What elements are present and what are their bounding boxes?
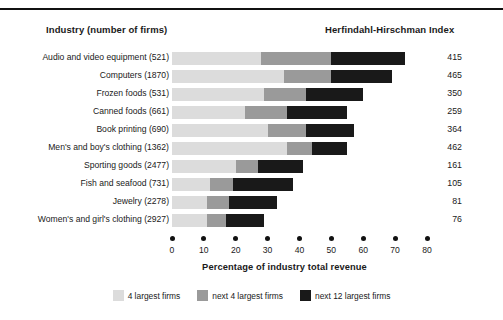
- legend-swatch: [197, 290, 208, 301]
- row-hhi-value: 462: [432, 141, 462, 153]
- legend-label: 4 largest firms: [128, 291, 181, 301]
- industry-column-header: Industry (number of firms): [46, 24, 167, 35]
- bar-segment: [236, 160, 258, 173]
- row-hhi-value: 105: [432, 177, 462, 189]
- bar-segment: [172, 214, 207, 227]
- axis-tick-dot: [393, 236, 398, 241]
- bar-segment: [172, 178, 210, 191]
- chart-legend: 4 largest firmsnext 4 largest firmsnext …: [0, 290, 503, 301]
- top-divider: [0, 8, 503, 10]
- axis-tick-label: 40: [287, 245, 313, 255]
- table-row: Jewelry (2278)81: [0, 194, 503, 212]
- bar-segment: [287, 142, 313, 155]
- axis-tick-label: 20: [223, 245, 249, 255]
- bar-segment: [172, 52, 261, 65]
- legend-item: next 12 largest firms: [300, 290, 390, 301]
- axis-tick-label: 80: [414, 245, 440, 255]
- row-industry-label: Fish and seafood (731): [81, 177, 169, 189]
- stacked-bar: [172, 160, 303, 173]
- stacked-bar: [172, 88, 363, 101]
- row-industry-label: Men's and boy's clothing (1362): [48, 141, 169, 153]
- bar-segment: [226, 214, 264, 227]
- legend-swatch: [113, 290, 124, 301]
- bar-segment: [229, 196, 277, 209]
- row-hhi-value: 415: [432, 51, 462, 63]
- bar-segment: [172, 106, 245, 119]
- bar-segment: [264, 88, 305, 101]
- legend-label: next 12 largest firms: [315, 291, 390, 301]
- x-axis-title-text: Percentage of industry total revenue: [202, 262, 367, 272]
- bar-segment: [268, 124, 306, 137]
- bar-segment: [312, 142, 347, 155]
- table-row: Fish and seafood (731)105: [0, 176, 503, 194]
- row-hhi-value: 465: [432, 69, 462, 81]
- row-hhi-value: 364: [432, 123, 462, 135]
- bar-segment: [306, 88, 363, 101]
- row-industry-label: Jewelry (2278): [113, 195, 169, 207]
- stacked-bar: [172, 178, 293, 191]
- bar-segment: [172, 160, 236, 173]
- axis-tick-dot: [233, 236, 238, 241]
- table-row: Frozen foods (531)350: [0, 86, 503, 104]
- legend-item: 4 largest firms: [113, 290, 181, 301]
- bar-segment: [287, 106, 348, 119]
- x-axis-title: Percentage of industry total revenue: [0, 262, 503, 272]
- stacked-bar: [172, 52, 405, 65]
- hhi-column-header: Herfindahl-Hirschman Index: [325, 24, 454, 35]
- legend-label: next 4 largest firms: [212, 291, 283, 301]
- row-hhi-value: 76: [432, 213, 462, 225]
- row-industry-label: Computers (1870): [100, 69, 169, 81]
- row-industry-label: Frozen foods (531): [96, 87, 169, 99]
- row-industry-label: Book printing (690): [96, 123, 169, 135]
- axis-tick-label: 10: [191, 245, 217, 255]
- axis-tick-dot: [170, 236, 175, 241]
- axis-tick-dot: [329, 236, 334, 241]
- stacked-bar: [172, 124, 354, 137]
- axis-tick-dot: [297, 236, 302, 241]
- axis-tick-label: 70: [382, 245, 408, 255]
- axis-tick-label: 60: [350, 245, 376, 255]
- row-industry-label: Women's and girl's clothing (2927): [38, 213, 169, 225]
- table-row: Computers (1870)465: [0, 68, 503, 86]
- row-industry-label: Canned foods (661): [93, 105, 169, 117]
- bar-segment: [172, 196, 207, 209]
- bar-segment: [172, 124, 268, 137]
- row-industry-label: Audio and video equipment (521): [42, 51, 169, 63]
- bar-segment: [233, 178, 294, 191]
- row-hhi-value: 81: [432, 195, 462, 207]
- bar-segment: [207, 196, 229, 209]
- bar-segment: [284, 70, 332, 83]
- stacked-bar: [172, 196, 277, 209]
- table-row: Book printing (690)364: [0, 122, 503, 140]
- stacked-bar: [172, 142, 347, 155]
- table-row: Men's and boy's clothing (1362)462: [0, 140, 503, 158]
- axis-tick-dot: [201, 236, 206, 241]
- stacked-bar: [172, 106, 347, 119]
- table-row: Sporting goods (2477)161: [0, 158, 503, 176]
- stacked-bar: [172, 214, 264, 227]
- chart-rows: Audio and video equipment (521)415Comput…: [0, 50, 503, 230]
- axis-tick-dot: [265, 236, 270, 241]
- bar-segment: [331, 70, 392, 83]
- table-row: Women's and girl's clothing (2927)76: [0, 212, 503, 230]
- bar-segment: [172, 70, 284, 83]
- bar-segment: [172, 142, 287, 155]
- legend-swatch: [300, 290, 311, 301]
- chart-figure: Industry (number of firms) Herfindahl-Hi…: [0, 0, 503, 320]
- axis-tick-label: 30: [255, 245, 281, 255]
- table-row: Canned foods (661)259: [0, 104, 503, 122]
- row-hhi-value: 259: [432, 105, 462, 117]
- axis-tick-dot: [361, 236, 366, 241]
- bar-segment: [207, 214, 226, 227]
- stacked-bar: [172, 70, 392, 83]
- bar-segment: [306, 124, 354, 137]
- row-industry-label: Sporting goods (2477): [84, 159, 169, 171]
- bar-segment: [245, 106, 286, 119]
- axis-tick-dot: [425, 236, 430, 241]
- row-hhi-value: 161: [432, 159, 462, 171]
- bar-segment: [331, 52, 404, 65]
- bar-segment: [261, 52, 331, 65]
- bar-segment: [258, 160, 303, 173]
- table-row: Audio and video equipment (521)415: [0, 50, 503, 68]
- row-hhi-value: 350: [432, 87, 462, 99]
